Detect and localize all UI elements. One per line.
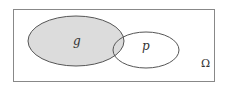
universe-label: Ω (201, 57, 210, 70)
venn-diagram: g p Ω (0, 0, 227, 86)
set-p-label: p (142, 39, 150, 53)
set-g-label: g (73, 34, 81, 48)
